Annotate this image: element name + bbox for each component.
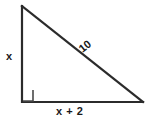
vertical-leg-label: x [6, 51, 12, 62]
right-angle-marker-icon [23, 90, 33, 101]
horizontal-leg-label: x + 2 [56, 106, 83, 117]
right-triangle-figure: x x + 2 10 [0, 0, 146, 123]
